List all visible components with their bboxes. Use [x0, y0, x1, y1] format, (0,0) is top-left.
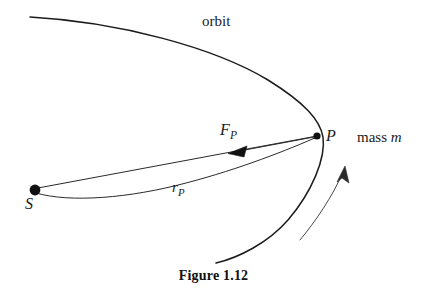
focus-s-label: S: [25, 196, 33, 212]
orbiting-point-dot: [313, 132, 320, 139]
mass-label: mass m: [357, 130, 402, 145]
orbit-label: orbit: [202, 14, 230, 29]
force-vector-label-subscript: P: [230, 129, 237, 141]
figure-caption: Figure 1.12: [0, 268, 427, 284]
motion-direction-arrowhead-icon: [337, 166, 349, 183]
point-p-label: P: [326, 128, 336, 144]
force-vector-arrowhead-icon: [228, 146, 247, 157]
focus-point-dot: [30, 185, 41, 196]
orbit-curve: [30, 17, 323, 263]
orbit-diagram-svg: [0, 0, 427, 298]
mass-label-prefix: mass: [357, 129, 391, 145]
motion-direction-arc: [300, 172, 343, 240]
figure-container: orbit P mass m S FP rP Figure 1.12: [0, 0, 427, 298]
force-vector-label-base: F: [220, 121, 230, 138]
radius-vector-label: rP: [172, 180, 184, 195]
mass-label-symbol: m: [391, 129, 402, 145]
force-vector-label: FP: [220, 122, 237, 138]
radius-vector-label-subscript: P: [178, 186, 185, 198]
radius-vector-label-base: r: [172, 179, 178, 195]
